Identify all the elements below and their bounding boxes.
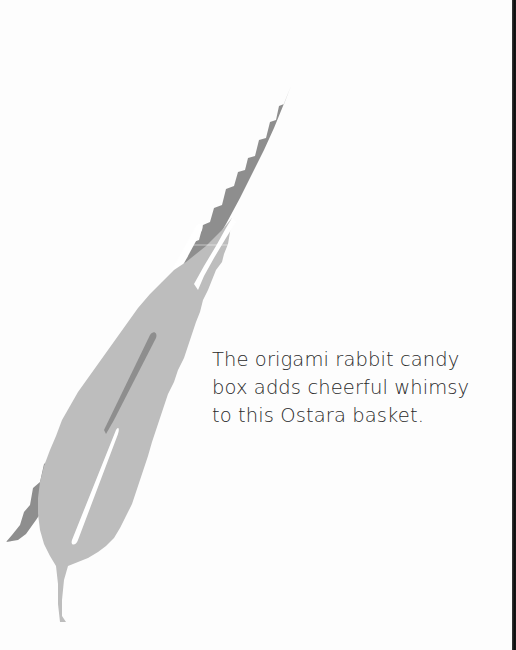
caption-text: The origami rabbit candy box adds cheerf… [212,346,512,430]
caption-line-1: The origami rabbit candy [212,346,512,374]
page-edge-shadow [512,0,516,650]
book-page: The origami rabbit candy box adds cheerf… [0,0,516,650]
caption-line-3: to this Ostara basket. [212,402,512,430]
caption-line-2: box adds cheerful whimsy [212,374,512,402]
light-leaf-icon [38,218,236,622]
leaf-illustration [0,0,516,650]
